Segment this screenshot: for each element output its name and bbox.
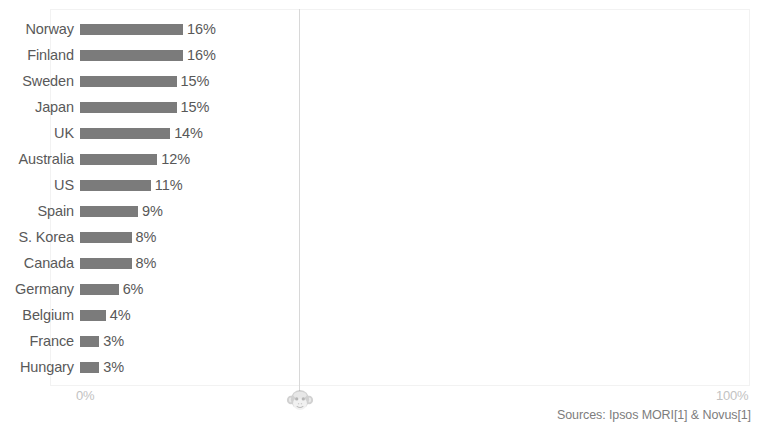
bar-track: 4% [74, 302, 761, 328]
bar-track: 16% [74, 16, 761, 42]
bar-row: Norway16% [0, 16, 761, 42]
bar [80, 128, 170, 139]
bar-value-label: 8% [136, 255, 157, 271]
bar [80, 24, 183, 35]
bar-category-label: France [0, 333, 74, 349]
bar-category-label: Canada [0, 255, 74, 271]
bar-row: Belgium4% [0, 302, 761, 328]
bar [80, 362, 99, 373]
bar [80, 232, 132, 243]
bar-row: Sweden15% [0, 68, 761, 94]
bar-value-label: 12% [161, 151, 190, 167]
bar-track: 8% [74, 250, 761, 276]
bar-value-label: 15% [181, 99, 210, 115]
bar-track: 3% [74, 354, 761, 380]
bar-value-label: 3% [103, 359, 124, 375]
bar-category-label: Australia [0, 151, 74, 167]
bar-value-label: 16% [187, 21, 216, 37]
bar [80, 336, 99, 347]
bar [80, 180, 151, 191]
bar-row: UK14% [0, 120, 761, 146]
bar-row: Canada8% [0, 250, 761, 276]
bar-rows-container: Norway16%Finland16%Sweden15%Japan15%UK14… [0, 16, 761, 380]
x-axis-tick-min: 0% [76, 388, 94, 403]
bar-value-label: 8% [136, 229, 157, 245]
bar-row: Spain9% [0, 198, 761, 224]
bar-row: US11% [0, 172, 761, 198]
bar-track: 11% [74, 172, 761, 198]
bar-category-label: Spain [0, 203, 74, 219]
bar-track: 9% [74, 198, 761, 224]
bar-value-label: 14% [174, 125, 203, 141]
bar-chart: Norway16%Finland16%Sweden15%Japan15%UK14… [0, 0, 761, 436]
bar-track: 15% [74, 94, 761, 120]
bar [80, 284, 119, 295]
source-annotation: Sources: Ipsos MORI[1] & Novus[1] [557, 408, 751, 422]
bar [80, 206, 138, 217]
bar [80, 258, 132, 269]
bar-row: Japan15% [0, 94, 761, 120]
x-axis-tick-max: 100% [716, 388, 748, 403]
bar-value-label: 15% [181, 73, 210, 89]
bar-row: France3% [0, 328, 761, 354]
bar-track: 14% [74, 120, 761, 146]
bar-category-label: Norway [0, 21, 74, 37]
bar-track: 16% [74, 42, 761, 68]
bar-row: Finland16% [0, 42, 761, 68]
bar-category-label: Sweden [0, 73, 74, 89]
bar-track: 8% [74, 224, 761, 250]
bar-value-label: 6% [123, 281, 144, 297]
bar-row: Germany6% [0, 276, 761, 302]
bar-track: 3% [74, 328, 761, 354]
bar-category-label: Germany [0, 281, 74, 297]
monkey-face-icon [286, 387, 314, 413]
bar-category-label: US [0, 177, 74, 193]
bar [80, 50, 183, 61]
bar [80, 102, 177, 113]
bar [80, 154, 157, 165]
bar [80, 76, 177, 87]
bar-track: 15% [74, 68, 761, 94]
bar-row: Hungary3% [0, 354, 761, 380]
bar-category-label: UK [0, 125, 74, 141]
bar-category-label: S. Korea [0, 229, 74, 245]
bar-value-label: 3% [103, 333, 124, 349]
bar-value-label: 11% [155, 177, 183, 193]
bar [80, 310, 106, 321]
bar-track: 6% [74, 276, 761, 302]
bar-value-label: 4% [110, 307, 131, 323]
bar-track: 12% [74, 146, 761, 172]
bar-category-label: Belgium [0, 307, 74, 323]
bar-row: S. Korea8% [0, 224, 761, 250]
bar-category-label: Japan [0, 99, 74, 115]
bar-category-label: Hungary [0, 359, 74, 375]
bar-value-label: 9% [142, 203, 163, 219]
bar-row: Australia12% [0, 146, 761, 172]
bar-category-label: Finland [0, 47, 74, 63]
bar-value-label: 16% [187, 47, 216, 63]
